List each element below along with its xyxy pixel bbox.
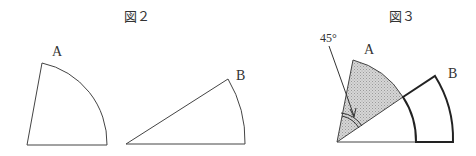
figure-2-sector-b	[126, 79, 245, 144]
figure-3-sector-b	[403, 76, 453, 142]
figure-3-label-a: A	[364, 42, 375, 57]
figure-3: 図３ 45° A B	[320, 9, 457, 142]
figure-3-angle-label: 45°	[320, 31, 337, 45]
diagram-canvas: 図２ A B 図３ 45° A B	[0, 0, 476, 156]
figure-2-caption: 図２	[124, 9, 150, 24]
figure-3-caption: 図３	[389, 9, 415, 24]
figure-2-label-a: A	[52, 44, 63, 59]
figure-3-sector-a	[337, 60, 403, 142]
figure-2: 図２ A B	[27, 9, 245, 145]
figure-3-label-b: B	[448, 66, 457, 81]
figure-2-label-b: B	[236, 68, 245, 83]
figure-2-sector-a	[27, 63, 107, 145]
